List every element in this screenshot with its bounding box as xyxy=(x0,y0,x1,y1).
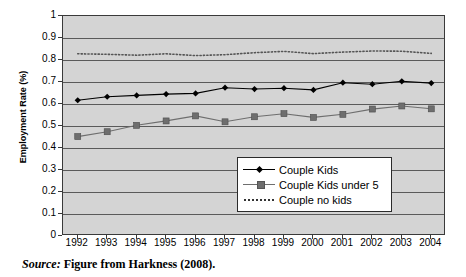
figure-container: Employment Rate (%) 00.10.20.30.40.50.60… xyxy=(0,0,466,277)
legend-key-dotted-icon xyxy=(243,194,275,205)
y-axis-tick-label: 0.2 xyxy=(14,185,56,196)
legend-label: Couple Kids xyxy=(279,164,338,176)
x-axis-tick xyxy=(106,235,107,239)
y-axis-tick-label: 0.3 xyxy=(14,163,56,174)
data-point-marker xyxy=(281,85,287,91)
data-point-marker xyxy=(428,80,434,86)
y-axis-tick-label: 0.8 xyxy=(14,53,56,64)
data-point-marker xyxy=(428,106,434,112)
x-axis-tick xyxy=(430,235,431,239)
data-point-marker xyxy=(75,97,81,103)
data-point-marker xyxy=(310,114,316,120)
legend-key-square-icon xyxy=(243,179,275,190)
data-point-marker xyxy=(193,113,199,119)
data-point-marker xyxy=(251,86,257,92)
data-point-marker xyxy=(222,85,228,91)
data-point-marker xyxy=(104,129,110,135)
x-axis-tick xyxy=(283,235,284,239)
x-axis-tick xyxy=(224,235,225,239)
y-axis-tick-label: 0.1 xyxy=(14,207,56,218)
x-axis-tick xyxy=(312,235,313,239)
x-axis-tick xyxy=(195,235,196,239)
legend-label: Couple no kids xyxy=(279,194,352,206)
x-axis-labels: 1992199319941995199619971998199920002001… xyxy=(62,238,445,252)
y-axis-tick-label: 0.7 xyxy=(14,75,56,86)
data-point-marker xyxy=(281,111,287,117)
x-axis-tick-label: 2004 xyxy=(413,238,447,248)
legend-label: Couple Kids under 5 xyxy=(279,179,379,191)
data-point-marker xyxy=(163,118,169,124)
x-axis-tick xyxy=(165,235,166,239)
data-point-marker xyxy=(369,81,375,87)
data-point-marker xyxy=(340,80,346,86)
data-point-marker xyxy=(399,103,405,109)
y-axis-tick xyxy=(58,235,62,236)
source-prefix: Source: xyxy=(22,257,61,271)
chart-legend: Couple Kids Couple Kids under 5 Couple n… xyxy=(237,157,392,212)
data-point-marker xyxy=(192,90,198,96)
source-text: Figure from Harkness (2008). xyxy=(61,257,216,271)
data-point-marker xyxy=(104,94,110,100)
data-point-marker xyxy=(222,119,228,125)
data-point-marker xyxy=(75,134,81,140)
y-axis-tick-label: 1 xyxy=(14,9,56,20)
y-axis-tick-label: 0.4 xyxy=(14,141,56,152)
data-point-marker xyxy=(310,87,316,93)
y-axis-tick-label: 0.5 xyxy=(14,119,56,130)
data-point-marker xyxy=(340,111,346,117)
data-point-marker xyxy=(134,122,140,128)
x-axis-tick xyxy=(77,235,78,239)
legend-item-couple-kids: Couple Kids xyxy=(243,162,386,177)
data-point-marker xyxy=(369,106,375,112)
data-point-marker xyxy=(134,92,140,98)
data-point-marker xyxy=(252,114,258,120)
data-point-marker xyxy=(399,78,405,84)
legend-key-diamond-icon xyxy=(243,164,275,175)
series-line-couple-kids-under-5 xyxy=(78,106,432,137)
x-axis-tick xyxy=(254,235,255,239)
x-axis-tick xyxy=(401,235,402,239)
y-axis-tick-label: 0.9 xyxy=(14,31,56,42)
data-point-marker xyxy=(163,91,169,97)
y-axis-tick-label: 0.6 xyxy=(14,97,56,108)
x-axis-tick xyxy=(342,235,343,239)
source-caption: Source: Figure from Harkness (2008). xyxy=(22,257,215,272)
series-line-couple-no-kids xyxy=(78,51,432,56)
legend-item-couple-kids-under-5: Couple Kids under 5 xyxy=(243,177,386,192)
y-axis-tick-label: 0 xyxy=(14,229,56,240)
x-axis-tick xyxy=(136,235,137,239)
x-axis-tick xyxy=(371,235,372,239)
legend-item-couple-no-kids: Couple no kids xyxy=(243,192,386,207)
